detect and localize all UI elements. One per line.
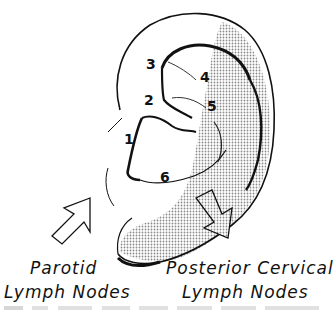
posterior-cervical-label-line1: Posterior Cervical (166, 258, 334, 278)
region-label-6: 6 (160, 169, 170, 185)
region-label-5: 5 (207, 98, 217, 114)
parotid-label-line1: Parotid (30, 258, 97, 278)
region-label-1: 1 (124, 131, 134, 147)
region-label-4: 4 (200, 69, 210, 85)
parotid-label-line2: Lymph Nodes (4, 282, 131, 302)
parotid-arrow (52, 198, 90, 244)
truncated-caption (4, 306, 319, 310)
stippled-region (120, 22, 270, 261)
region-label-3: 3 (146, 56, 156, 72)
region-label-2: 2 (144, 92, 154, 108)
posterior-cervical-label-line2: Lymph Nodes (182, 282, 309, 302)
